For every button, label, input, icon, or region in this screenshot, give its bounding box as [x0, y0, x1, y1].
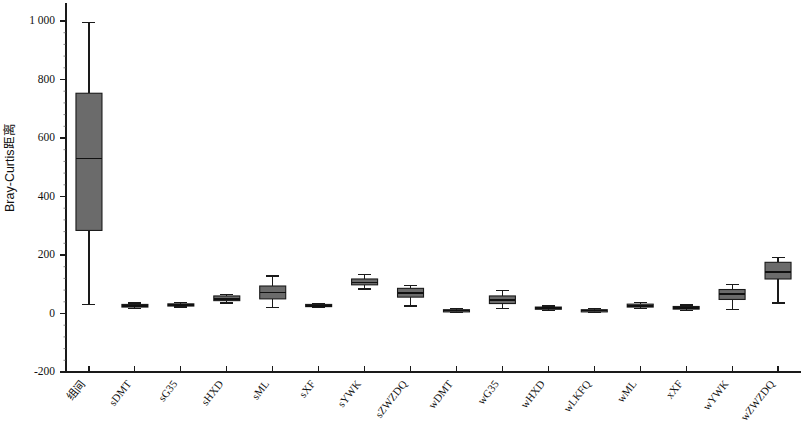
y-axis-title: Bray-Curtis距离 [2, 123, 17, 212]
x-axis-tick-label: sML [249, 378, 271, 402]
y-axis-tick-label: 0 [49, 307, 55, 319]
box-iqr [765, 262, 791, 279]
y-axis-tick-label: 600 [38, 131, 56, 143]
box-plot-item [352, 275, 378, 289]
y-axis-tick-label: 400 [38, 190, 56, 202]
x-axis-tick-label: sXF [296, 378, 317, 400]
x-axis-tick-label: wZWZDQ [738, 378, 777, 423]
box-plot-item [719, 284, 745, 309]
box-plot-item [76, 22, 102, 304]
box-plot-item [443, 309, 469, 313]
box-plot-item [122, 303, 148, 308]
box-plot-item [765, 257, 791, 303]
box-iqr [76, 93, 102, 230]
box-plot-item [489, 291, 515, 309]
x-axis-tick-label: sZWZDQ [373, 378, 410, 420]
x-axis-tick-label: wYWK [700, 378, 731, 412]
box-plot-item [398, 285, 424, 305]
y-axis-tick-label: -200 [34, 365, 55, 377]
box-plot-item [673, 305, 699, 310]
box-plot-item [306, 304, 332, 308]
x-axis-tick-label: wHXD [518, 378, 547, 410]
box-plot-item [214, 294, 240, 303]
bray-curtis-boxplot-figure: -20002004006008001 000 组间sDMTsG35sHXDsML… [0, 0, 809, 430]
box-plot-item [581, 309, 607, 313]
x-axis-tick-label: wG35 [475, 377, 501, 406]
x-axis: 组间sDMTsG35sHXDsMLsXFsYWKsZWZDQwDMTwG35wH… [64, 366, 801, 423]
x-axis-tick-label: wDMT [426, 378, 456, 411]
y-axis-tick-label: 800 [38, 73, 56, 85]
x-axis-tick-label: wML [614, 378, 639, 405]
x-axis-tick-label: sDMT [106, 378, 133, 408]
y-axis: -20002004006008001 000 [29, 3, 66, 377]
box-plot-item [168, 303, 194, 307]
box-plot-item [535, 306, 561, 310]
y-axis-tick-label: 1 000 [29, 14, 55, 26]
boxplot-svg: -20002004006008001 000 组间sDMTsG35sHXDsML… [0, 0, 809, 430]
x-axis-tick-label: sHXD [199, 378, 226, 408]
x-axis-tick-label: 组间 [64, 377, 88, 402]
box-plot-item [627, 303, 653, 309]
x-axis-tick-label: wLKFQ [561, 378, 593, 414]
x-axis-tick-label: sG35 [156, 377, 180, 403]
box-series [76, 22, 791, 312]
x-axis-tick-label: xXF [663, 378, 685, 401]
y-axis-tick-label: 200 [38, 248, 56, 260]
box-plot-item [260, 276, 286, 308]
x-axis-tick-label: sYWK [335, 378, 363, 410]
